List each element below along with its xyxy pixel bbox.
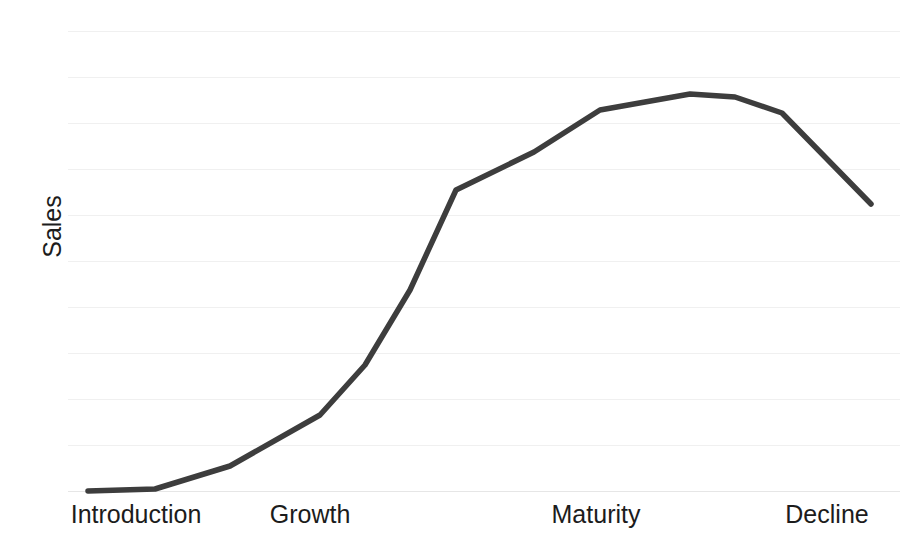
plot-area	[68, 8, 900, 492]
x-tick-label: Growth	[270, 500, 351, 529]
sales-lifecycle-chart: Sales IntroductionGrowthMaturityDecline	[0, 0, 920, 541]
y-axis-title: Sales	[38, 167, 67, 287]
x-tick-label: Maturity	[552, 500, 641, 529]
sales-line-path	[88, 94, 871, 491]
x-tick-label: Introduction	[71, 500, 202, 529]
x-tick-label: Decline	[785, 500, 868, 529]
x-axis-labels: IntroductionGrowthMaturityDecline	[0, 500, 920, 541]
sales-line-series	[68, 8, 900, 492]
